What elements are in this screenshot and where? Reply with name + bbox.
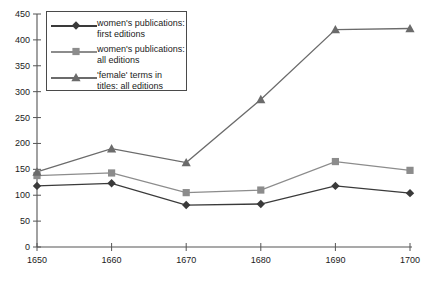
line-chart: 450400350300250200150100500 165016601670…: [0, 0, 422, 282]
triangle-marker: [71, 73, 80, 81]
x-axis-tick-label: 1650: [17, 255, 57, 265]
legend-label: women's publications: first editions: [97, 18, 185, 39]
legend-marker-sample: [51, 19, 97, 32]
diamond-marker: [406, 189, 414, 197]
triangle-marker: [107, 144, 116, 152]
y-axis-tick-label: 0: [0, 242, 30, 252]
triangle-marker: [68, 71, 84, 84]
square-marker: [183, 189, 190, 196]
legend-item: 'female' terms in titles: all editions: [51, 70, 163, 91]
legend-item: women's publications: first editions: [51, 18, 185, 39]
square-marker: [257, 186, 264, 193]
chart-legend: women's publications: first editionswome…: [46, 11, 187, 91]
square-marker: [108, 169, 115, 176]
legend-label: 'female' terms in titles: all editions: [97, 70, 163, 91]
square-marker: [406, 167, 413, 174]
diamond-marker: [107, 179, 115, 187]
x-axis-tick-label: 1700: [390, 255, 422, 265]
diamond-marker: [257, 200, 265, 208]
x-axis-tick-label: 1680: [241, 255, 281, 265]
y-axis-tick-label: 150: [0, 164, 30, 174]
y-axis-tick-label: 350: [0, 61, 30, 71]
diamond-marker: [33, 182, 41, 190]
legend-marker-sample: [51, 71, 97, 84]
y-axis-tick-label: 250: [0, 113, 30, 123]
square-marker: [332, 158, 339, 165]
y-axis-tick-label: 300: [0, 87, 30, 97]
diamond-marker: [72, 21, 80, 29]
legend-label: women's publications: all editions: [97, 44, 185, 65]
square-marker: [68, 45, 84, 58]
y-axis-tick-label: 450: [0, 9, 30, 19]
y-axis-tick-label: 200: [0, 138, 30, 148]
y-axis-tick-label: 100: [0, 190, 30, 200]
y-axis-tick-label: 50: [0, 216, 30, 226]
y-axis-tick-label: 400: [0, 35, 30, 45]
x-axis-tick-label: 1670: [166, 255, 206, 265]
legend-item: women's publications: all editions: [51, 44, 185, 65]
series-line-0: [37, 183, 410, 205]
diamond-marker: [182, 201, 190, 209]
x-axis-tick-label: 1690: [315, 255, 355, 265]
square-marker: [72, 48, 79, 55]
diamond-marker: [331, 182, 339, 190]
x-axis-tick-label: 1660: [92, 255, 132, 265]
diamond-marker: [68, 19, 84, 32]
legend-marker-sample: [51, 45, 97, 58]
